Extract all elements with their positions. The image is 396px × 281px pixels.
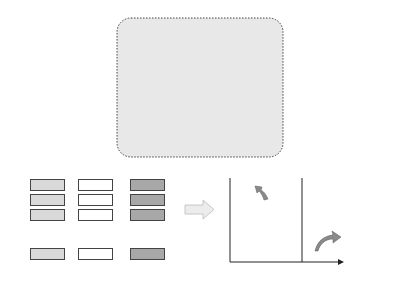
benign-arrow-icon [255,186,268,200]
diagram-canvas [0,0,396,281]
input-box-1 [30,179,65,191]
error-distribution-chart [230,178,344,265]
x-axis-arrowhead-icon [338,259,344,265]
input-box-2 [30,194,65,206]
output-box-1 [78,179,113,191]
autoencoder-box [117,18,283,157]
error-box-3 [130,209,165,221]
error-box-1 [130,179,165,191]
error-box-2 [130,194,165,206]
flow-arrow-icon [185,200,214,219]
error-box-n [130,248,165,260]
output-box-3 [78,209,113,221]
input-box-n [30,248,65,260]
anomaly-arrow-icon [315,231,341,251]
input-box-3 [30,209,65,221]
autoencoder-diagram [0,0,396,281]
output-box-2 [78,194,113,206]
output-box-n [78,248,113,260]
